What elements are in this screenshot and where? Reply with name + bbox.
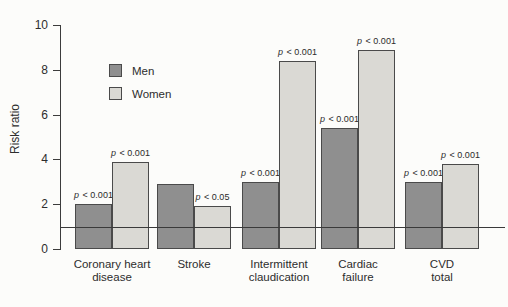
p-value-label-women-intermittent-claudication: p < 0.001 bbox=[264, 47, 332, 58]
legend-label-men: Men bbox=[132, 65, 154, 77]
bar-women-intermittent-claudication bbox=[279, 61, 316, 249]
risk-ratio-bar-chart: Risk ratio 0246810p < 0.001p < 0.001p < … bbox=[0, 0, 508, 307]
p-value-label-women-cardiac-failure: p < 0.001 bbox=[343, 36, 411, 47]
legend-swatch-men-icon bbox=[109, 64, 122, 77]
legend-label-women: Women bbox=[132, 88, 171, 100]
bar-men-cvd-total bbox=[405, 182, 442, 249]
bar-men-cardiac-failure bbox=[321, 128, 358, 249]
p-value-label-women-coronary-heart-disease: p < 0.001 bbox=[97, 148, 165, 159]
y-axis-tick bbox=[53, 115, 60, 116]
y-axis-tick bbox=[53, 25, 60, 26]
y-axis-tick bbox=[53, 249, 60, 250]
y-axis-tick bbox=[53, 204, 60, 205]
y-axis-tick-label: 8 bbox=[24, 63, 48, 77]
y-axis-line bbox=[60, 25, 61, 250]
legend: Men Women bbox=[109, 64, 171, 110]
legend-item-men: Men bbox=[109, 64, 171, 77]
y-axis-tick-label: 4 bbox=[24, 152, 48, 166]
bar-women-cardiac-failure bbox=[358, 50, 395, 249]
p-value-label-women-cvd-total: p < 0.001 bbox=[427, 150, 495, 161]
bar-women-coronary-heart-disease bbox=[112, 162, 149, 249]
bar-men-intermittent-claudication bbox=[242, 182, 279, 249]
legend-item-women: Women bbox=[109, 87, 171, 100]
y-axis-tick-label: 10 bbox=[24, 18, 48, 32]
bar-women-cvd-total bbox=[442, 164, 479, 249]
category-label-cvd-total: CVD total bbox=[387, 258, 497, 284]
y-axis-tick bbox=[53, 159, 60, 160]
y-axis-tick bbox=[53, 70, 60, 71]
y-axis-title: Risk ratio bbox=[8, 88, 24, 170]
y-axis-tick-label: 0 bbox=[24, 242, 48, 256]
legend-swatch-women-icon bbox=[109, 87, 122, 100]
bar-women-stroke bbox=[194, 206, 231, 249]
p-value-label-women-stroke: p < 0.05 bbox=[179, 192, 247, 203]
y-axis-tick-label: 6 bbox=[24, 108, 48, 122]
reference-line bbox=[60, 227, 505, 228]
y-axis-tick-label: 2 bbox=[24, 197, 48, 211]
